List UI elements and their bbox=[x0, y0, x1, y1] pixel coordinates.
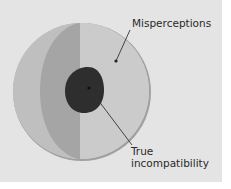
true-incompatibility-marker-dot bbox=[87, 86, 90, 89]
label-true-line2: incompatibility bbox=[131, 157, 209, 169]
label-true-incompatibility: True incompatibility bbox=[131, 145, 209, 169]
label-misperceptions: Misperceptions bbox=[132, 17, 211, 29]
misperceptions-marker-dot bbox=[114, 59, 117, 62]
label-true-line1: True bbox=[131, 145, 209, 157]
